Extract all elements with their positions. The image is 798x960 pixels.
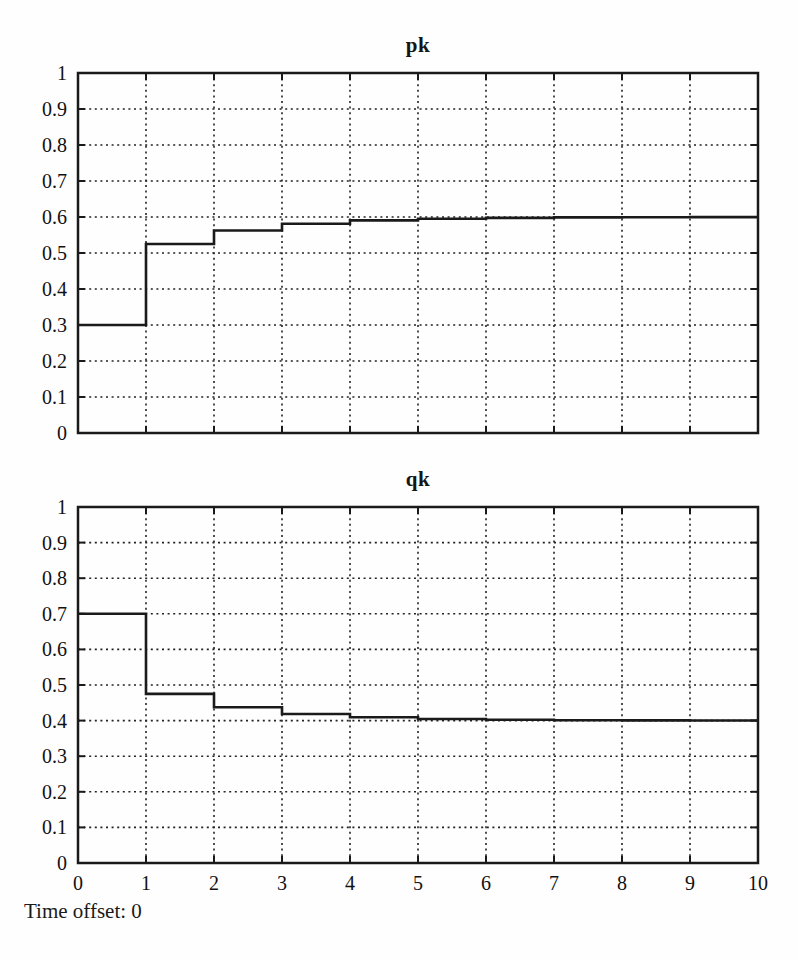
svg-text:5: 5 — [413, 872, 423, 894]
svg-text:0.3: 0.3 — [42, 745, 67, 767]
svg-text:1: 1 — [57, 496, 67, 518]
time-offset-label: Time offset: 0 — [24, 899, 142, 924]
scope-figure: pk 00.10.20.30.40.50.60.70.80.91 qk 00.1… — [0, 0, 798, 960]
svg-text:10: 10 — [748, 872, 768, 894]
svg-text:0.4: 0.4 — [42, 710, 67, 732]
svg-text:4: 4 — [345, 872, 355, 894]
svg-text:0: 0 — [57, 852, 67, 874]
svg-text:0.2: 0.2 — [42, 781, 67, 803]
svg-text:0: 0 — [73, 872, 83, 894]
svg-text:9: 9 — [685, 872, 695, 894]
svg-text:8: 8 — [617, 872, 627, 894]
svg-text:0.6: 0.6 — [42, 638, 67, 660]
svg-text:0.8: 0.8 — [42, 567, 67, 589]
svg-text:6: 6 — [481, 872, 491, 894]
svg-text:0.5: 0.5 — [42, 674, 67, 696]
svg-text:2: 2 — [209, 872, 219, 894]
svg-text:7: 7 — [549, 872, 559, 894]
svg-text:0.1: 0.1 — [42, 816, 67, 838]
svg-text:0.9: 0.9 — [42, 532, 67, 554]
svg-text:3: 3 — [277, 872, 287, 894]
svg-text:1: 1 — [141, 872, 151, 894]
qk-plot-svg: 00.10.20.30.40.50.60.70.80.9101234567891… — [0, 0, 798, 960]
svg-text:0.7: 0.7 — [42, 603, 67, 625]
